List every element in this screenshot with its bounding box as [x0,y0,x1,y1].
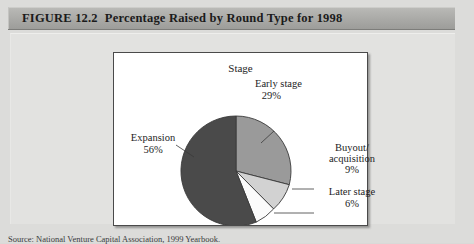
figure-number: FIGURE 12.2 [22,11,98,25]
label-buyout-name: Buyout/ [335,142,369,153]
label-later-stage: Later stage 6% [318,186,386,209]
label-later-stage-value: 6% [318,198,386,210]
figure-title-bar: FIGURE 12.2Percentage Raised by Round Ty… [8,7,455,29]
label-buyout-name-2: acquisition [318,153,386,164]
label-later-stage-name: Later stage [329,186,375,197]
label-early-stage-name: Early stage [255,78,302,89]
label-buyout-acquisition: Buyout/ acquisition 9% [318,142,386,175]
label-early-stage: Early stage 29% [255,78,302,101]
source-note: Source: National Venture Capital Associa… [8,234,220,244]
label-early-stage-value: 29% [255,90,302,102]
figure-title: FIGURE 12.2Percentage Raised by Round Ty… [22,11,342,26]
label-buyout-value: 9% [318,164,386,175]
figure-title-text: Percentage Raised by Round Type for 1998 [105,11,343,25]
label-expansion-value: 56% [118,144,188,156]
label-expansion: Expansion 56% [118,132,188,155]
label-expansion-name: Expansion [131,132,175,143]
